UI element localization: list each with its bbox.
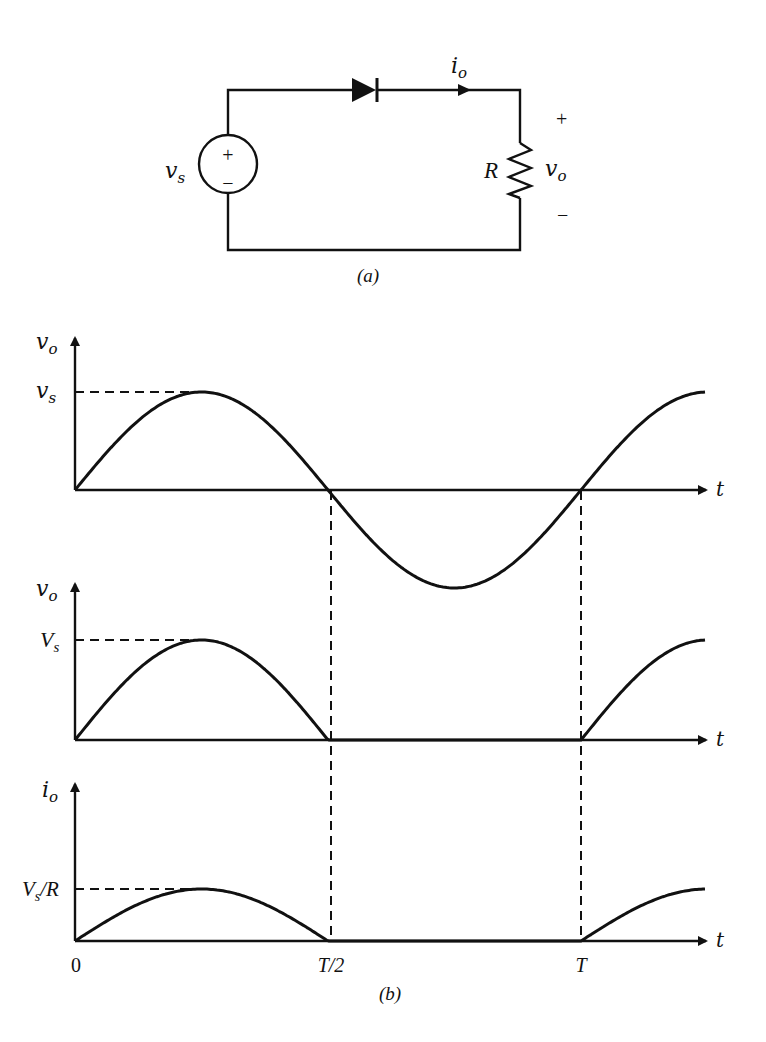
x-tick-half-period: T/2	[318, 954, 345, 976]
x-axis-label: t	[716, 928, 725, 952]
graph-output-current: io Vs/R t 0 T/2 T	[22, 777, 725, 976]
top-right-wire	[378, 90, 520, 143]
source-plus-sign: +	[222, 144, 233, 166]
graph-output-voltage: vo Vs t	[36, 576, 725, 751]
output-plus-sign: +	[556, 108, 567, 130]
y-axis-label: io	[42, 777, 58, 806]
y-axis-label: vo	[36, 576, 57, 605]
source-minus-sign: −	[222, 172, 233, 194]
x-tick-period: T	[575, 954, 588, 976]
caption-b: (b)	[379, 983, 401, 1005]
circuit-schematic: + − vs io R + vo − (a)	[165, 53, 568, 287]
resistor-icon	[509, 143, 531, 198]
right-bottom-wire	[228, 194, 520, 250]
output-minus-sign: −	[557, 204, 568, 226]
x-axis-label: t	[716, 477, 725, 501]
peak-label: Vs	[40, 627, 59, 655]
source-label: vs	[165, 158, 185, 187]
x-tick-0: 0	[71, 954, 81, 976]
peak-label: vs	[36, 378, 56, 407]
current-label: io	[451, 53, 467, 82]
graph-source-voltage: vo vs t	[36, 329, 725, 588]
rectified-voltage-waveform	[75, 640, 705, 740]
current-waveform	[75, 889, 705, 941]
half-wave-rectifier-figure: + − vs io R + vo − (a) vo vs t	[0, 0, 766, 1042]
output-voltage-label: vo	[545, 156, 566, 185]
resistor-label: R	[483, 158, 498, 183]
x-axis-label: t	[716, 727, 725, 751]
y-axis-label: vo	[36, 329, 57, 358]
current-arrow-icon	[458, 84, 471, 96]
caption-a: (a)	[357, 265, 379, 287]
diode-icon	[352, 78, 377, 102]
top-left-wire	[228, 90, 352, 134]
voltage-source-icon: + −	[199, 135, 257, 194]
peak-label: Vs/R	[22, 877, 59, 904]
